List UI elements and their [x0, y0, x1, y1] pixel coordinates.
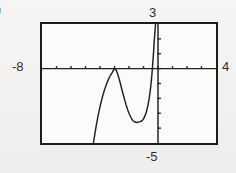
calculator-viewport-frame [40, 22, 218, 145]
window-ymax-label: 3 [149, 6, 156, 19]
screenshot-root: ) -8 4 3 -5 [0, 0, 236, 173]
window-xmin-label: -8 [12, 60, 24, 73]
window-ymin-label: -5 [146, 150, 158, 163]
curve-group [93, 24, 155, 143]
axes-group [42, 24, 216, 143]
plot-curve [93, 24, 155, 143]
plot-canvas [42, 24, 216, 143]
problem-label: ) [0, 2, 1, 17]
window-xmax-label: 4 [222, 60, 229, 73]
